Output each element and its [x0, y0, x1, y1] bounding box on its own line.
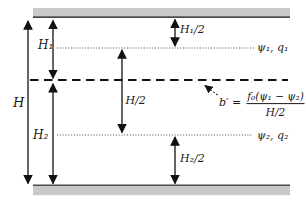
- formula-denominator: H/2: [265, 106, 286, 118]
- layer1-half-label: H₁/2: [179, 23, 205, 36]
- layer2-half-label: H₂/2: [179, 152, 205, 165]
- buoyancy-formula: b′ = f₀(ψ₁ − ψ₂) H/2: [219, 90, 305, 118]
- two-layer-channel-diagram: H H₁ H₂ H/2 H₁/2 H₂/2 ψ₁, q₁ ψ₂, q₂ b′ =…: [0, 0, 306, 204]
- layer1-fields-label: ψ₁, q₁: [257, 41, 288, 54]
- formula-numerator: f₀(ψ₁ − ψ₂): [246, 90, 304, 102]
- layer1-depth-label: H₁: [37, 38, 53, 52]
- half-depth-label: H/2: [125, 94, 146, 107]
- formula-lhs: b′ =: [219, 96, 241, 109]
- layer2-fields-label: ψ₂, q₂: [257, 129, 288, 142]
- formula-pointer-arrow: [205, 86, 218, 96]
- top-wall: [33, 8, 290, 17]
- total-depth-label: H: [12, 95, 25, 110]
- layer2-depth-label: H₂: [32, 128, 48, 142]
- diagram-svg: H H₁ H₂ H/2 H₁/2 H₂/2 ψ₁, q₁ ψ₂, q₂ b′ =…: [0, 0, 306, 204]
- bottom-wall: [33, 186, 290, 195]
